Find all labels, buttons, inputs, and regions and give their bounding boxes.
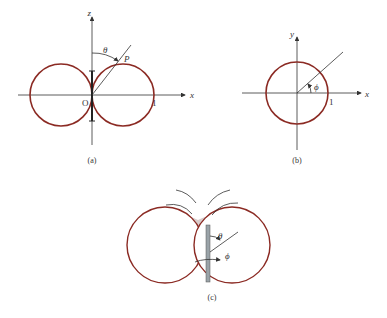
- radius-line: [297, 52, 343, 93]
- z-axis-label: z: [86, 8, 91, 18]
- unit-tick-label: 1: [329, 97, 334, 107]
- radius-line: [92, 45, 131, 95]
- phi-label: ϕ: [314, 82, 319, 92]
- panel-a: z x θ P O 1 (a): [18, 8, 194, 165]
- unit-tick-label: 1: [152, 98, 157, 108]
- caption-b: (b): [292, 156, 302, 165]
- origin-label: O: [82, 98, 89, 108]
- theta-label: θ: [103, 45, 108, 55]
- phi-label: ϕ: [225, 251, 230, 261]
- contour-line: [176, 190, 196, 203]
- radiation-pattern-figure: z x θ P O 1 (a) y x ϕ 1 (b) θ ϕ (c): [0, 0, 387, 318]
- left-torus-section: [127, 207, 203, 283]
- x-axis-label: x: [189, 90, 194, 100]
- right-torus-section: [194, 207, 270, 283]
- y-axis-label: y: [289, 29, 294, 39]
- caption-a: (a): [88, 156, 97, 165]
- contour-line: [208, 190, 230, 205]
- panel-b: y x ϕ 1 (b): [242, 29, 369, 165]
- point-p-label: P: [123, 54, 130, 64]
- panel-c: θ ϕ (c): [127, 190, 270, 302]
- antenna-rod: [206, 225, 210, 282]
- caption-c: (c): [208, 293, 217, 302]
- x-axis-label: x: [364, 89, 369, 99]
- phi-arc: [308, 84, 311, 93]
- theta-label: θ: [218, 231, 223, 241]
